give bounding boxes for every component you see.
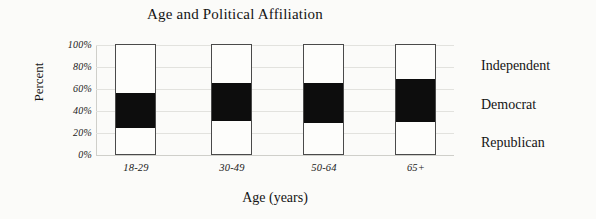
- gridline-0: [96, 155, 454, 156]
- y-tick-label: 0%: [48, 149, 92, 160]
- bar-segment-republican: [116, 128, 155, 154]
- y-tick-60: 60%: [44, 83, 92, 95]
- x-tick-label-50-64: 50-64: [311, 162, 337, 173]
- y-tick-40: 40%: [44, 105, 92, 117]
- chart-container: Age and Political Affiliation Percent 10…: [0, 0, 596, 219]
- plot-area: [96, 45, 454, 155]
- y-tick-label: 80%: [48, 61, 92, 72]
- y-tick-80: 80%: [44, 61, 92, 73]
- bar-segment-republican: [212, 121, 251, 154]
- bar-segment-republican: [396, 122, 435, 154]
- y-tick-label: 40%: [48, 105, 92, 116]
- y-tick-label: 20%: [48, 127, 92, 138]
- y-tick-100: 100%: [44, 39, 92, 51]
- y-tick-0: 0%: [44, 149, 92, 161]
- bar-segment-independent: [304, 45, 343, 83]
- y-tick-label: 60%: [48, 83, 92, 94]
- bar-segment-independent: [212, 45, 251, 83]
- y-tick-label: 100%: [48, 39, 92, 50]
- bar-segment-democrat: [116, 93, 155, 132]
- bar-segment-democrat: [212, 83, 251, 121]
- bar-segment-democrat: [304, 83, 343, 123]
- bar-30-49[interactable]: [211, 44, 252, 155]
- y-tick-20: 20%: [44, 127, 92, 139]
- bar-segment-democrat: [396, 79, 435, 123]
- bar-segment-independent: [116, 45, 155, 93]
- legend-item-democrat[interactable]: Democrat: [481, 97, 536, 113]
- bar-segment-independent: [396, 45, 435, 79]
- x-tick-label-18-29: 18-29: [123, 162, 149, 173]
- x-tick-label-65-plus: 65+: [407, 162, 425, 173]
- bar-18-29[interactable]: [115, 44, 156, 155]
- x-axis-title: Age (years): [96, 190, 454, 206]
- x-tick-label-30-49: 30-49: [219, 162, 245, 173]
- bar-65-plus[interactable]: [395, 44, 436, 155]
- chart-title: Age and Political Affiliation: [0, 6, 470, 23]
- bar-segment-republican: [304, 123, 343, 154]
- bar-50-64[interactable]: [303, 44, 344, 155]
- legend-item-independent[interactable]: Independent: [481, 58, 550, 74]
- legend-item-republican[interactable]: Republican: [481, 135, 545, 151]
